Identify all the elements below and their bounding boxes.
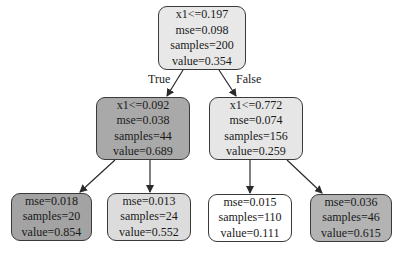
node-value: value=0.354 (172, 54, 232, 70)
node-mse: mse=0.036 (324, 195, 377, 211)
node-samples: samples=46 (322, 210, 379, 226)
node-samples: samples=44 (114, 129, 171, 145)
node-leaf-2: mse=0.013 samples=24 value=0.552 (107, 193, 191, 241)
node-value: value=0.689 (113, 144, 173, 160)
node-samples: samples=200 (170, 38, 233, 54)
edge-label-false: False (236, 72, 261, 87)
node-samples: samples=156 (224, 129, 287, 145)
node-mse: mse=0.074 (229, 113, 282, 129)
node-value: value=0.615 (321, 226, 381, 242)
node-mse: mse=0.038 (116, 113, 169, 129)
edge-left-leaf1 (80, 160, 115, 192)
node-leaf-1: mse=0.018 samples=20 value=0.854 (11, 193, 92, 241)
edge-root-right (219, 70, 236, 96)
node-samples: samples=20 (23, 209, 80, 225)
node-leaf-3: mse=0.015 samples=110 value=0.111 (208, 194, 292, 242)
node-mse: mse=0.015 (223, 195, 276, 211)
node-value: value=0.552 (119, 225, 179, 241)
node-samples: samples=24 (120, 209, 177, 225)
node-split: x1<=0.772 (230, 98, 283, 114)
node-mse: mse=0.018 (25, 194, 78, 210)
node-samples: samples=110 (219, 210, 282, 226)
node-root: x1<=0.197 mse=0.098 samples=200 value=0.… (158, 6, 246, 70)
edge-label-true: True (148, 72, 170, 87)
node-mse: mse=0.098 (175, 23, 228, 39)
node-split: x1<=0.197 (176, 7, 229, 23)
node-leaf-4: mse=0.036 samples=46 value=0.615 (310, 194, 392, 242)
node-mse: mse=0.013 (122, 194, 175, 210)
node-left-mid: x1<=0.092 mse=0.038 samples=44 value=0.6… (96, 97, 190, 160)
edge-right-leaf4 (287, 160, 322, 193)
node-value: value=0.259 (226, 144, 286, 160)
node-value: value=0.854 (22, 225, 82, 241)
node-split: x1<=0.092 (117, 98, 170, 114)
node-right-mid: x1<=0.772 mse=0.074 samples=156 value=0.… (209, 97, 303, 160)
node-value: value=0.111 (221, 226, 280, 242)
